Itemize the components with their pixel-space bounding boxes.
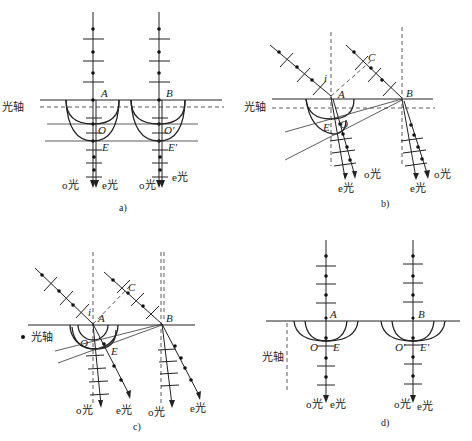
optic-axis-label: 光轴 (262, 350, 284, 363)
angle-i: i (324, 72, 327, 84)
angle-i: i (88, 306, 91, 318)
panel-d: 光轴 A B O E O′ E′ o光 e光 o光 e光 d) (262, 240, 460, 429)
o-light-label: o光 (364, 167, 381, 180)
point-a: A (97, 312, 105, 324)
o-wavelet (306, 99, 354, 119)
e-light-label: e光 (172, 170, 188, 183)
optic-axis-dot-icon (21, 335, 25, 339)
o-light-label: o光 (434, 167, 451, 180)
e-light-label: e光 (102, 178, 118, 191)
point-a: A (329, 308, 337, 320)
o-wavelet-b (131, 100, 185, 124)
o-light-label: o光 (76, 403, 93, 416)
e-light-label: e光 (116, 403, 132, 416)
caption-a: a) (119, 202, 127, 214)
point-e-prime: E′ (419, 341, 430, 353)
e-light-label: e光 (410, 181, 426, 194)
point-c: C (128, 281, 136, 293)
e-light-label: e光 (190, 401, 206, 414)
point-e: E (110, 345, 118, 357)
point-o: O (340, 118, 348, 130)
point-e: E (322, 121, 330, 133)
point-e: E (332, 341, 340, 353)
e-wavelet-b (131, 100, 185, 141)
point-c: C (368, 51, 376, 63)
point-a: A (100, 87, 108, 99)
o-light-label: o光 (62, 178, 79, 191)
point-b: B (406, 87, 413, 99)
point-b: B (166, 312, 173, 324)
point-b: B (166, 87, 173, 99)
o-light-label: o光 (306, 397, 323, 410)
point-b: B (418, 308, 425, 320)
optic-axis-label: 光轴 (2, 100, 24, 113)
panel-b: 光轴 i A B C O E o光 e光 o光 e光 b) (244, 27, 451, 210)
birefringence-diagram: 光轴 A B O O′ E E′ o光 e光 o光 e光 a) (0, 0, 472, 441)
point-o-prime: O′ (164, 124, 175, 136)
o-light-label: o光 (139, 178, 156, 191)
point-e-prime: E′ (167, 141, 178, 153)
point-o-prime: O′ (395, 341, 406, 353)
point-o: O (80, 337, 88, 349)
point-o: O (310, 341, 318, 353)
caption-b: b) (381, 198, 389, 210)
o-light-label: o光 (148, 405, 165, 418)
point-a: A (337, 88, 345, 100)
e-light-label: e光 (338, 181, 354, 194)
caption-c: c) (133, 421, 141, 433)
e-light-label: e光 (330, 397, 346, 410)
caption-d: d) (381, 417, 389, 429)
point-e: E (101, 141, 109, 153)
panel-a: 光轴 A B O O′ E E′ o光 e光 o光 e光 a) (2, 12, 224, 214)
optic-axis-label: 光轴 (31, 330, 53, 343)
o-light-label: o光 (394, 397, 411, 410)
panel-c: 光轴 i A B C O E o光 e光 o光 e光 c) (21, 252, 206, 433)
point-o: O (98, 124, 106, 136)
e-light-label: e光 (417, 399, 433, 412)
optic-axis-label: 光轴 (244, 100, 266, 113)
